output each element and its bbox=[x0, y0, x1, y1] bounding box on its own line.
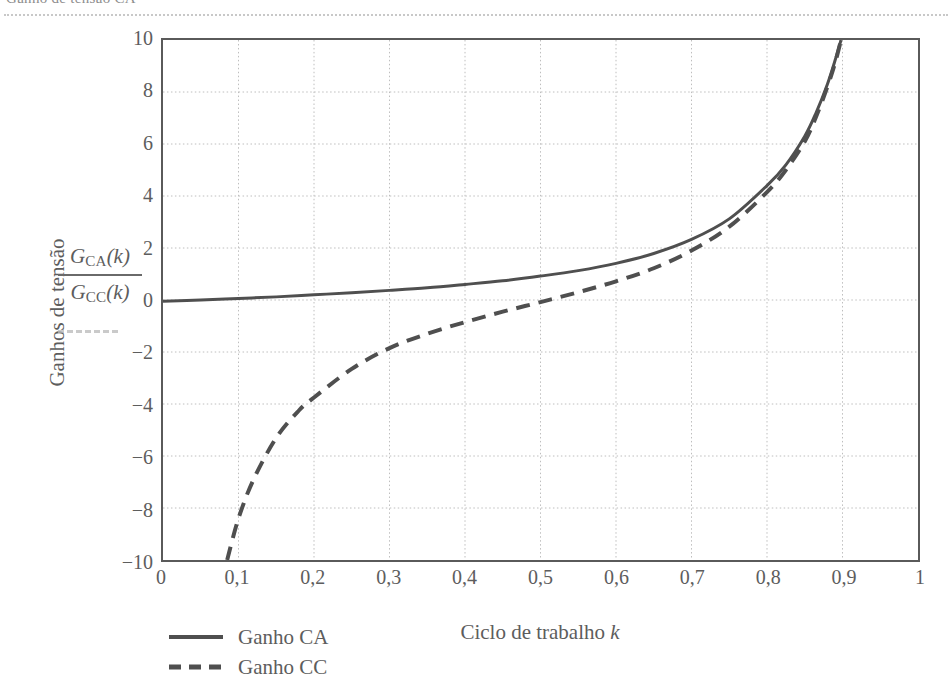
legend-label: Ganho CA bbox=[238, 625, 328, 650]
x-tick-label: 1 bbox=[915, 566, 925, 589]
dashed-line-icon bbox=[168, 660, 224, 674]
legend-item[interactable]: Ganho CA bbox=[168, 622, 418, 652]
y-axis-title: Ganhos de tensão bbox=[45, 198, 70, 428]
x-axis-variable: k bbox=[610, 620, 619, 644]
y-tick-label: −6 bbox=[95, 446, 153, 469]
y-tick-label: −8 bbox=[95, 498, 153, 521]
chart-figure: Ganhos de tensão GCA(k) GCC(k) 1086420−2… bbox=[0, 0, 951, 688]
y-tick-label: −2 bbox=[95, 341, 153, 364]
y-axis-tick-labels: 1086420−2−4−6−8−10 bbox=[87, 38, 153, 562]
solid-line-icon bbox=[168, 630, 224, 644]
y-tick-label: −4 bbox=[95, 393, 153, 416]
legend-label: Ganho CC bbox=[238, 655, 327, 680]
series-line-ganho-ca bbox=[163, 40, 841, 301]
y-tick-label: 2 bbox=[95, 236, 153, 259]
x-tick-label: 0,5 bbox=[528, 566, 553, 589]
y-tick-label: 10 bbox=[95, 27, 153, 50]
data-curves bbox=[163, 40, 918, 560]
y-tick-label: 8 bbox=[95, 79, 153, 102]
x-axis-title-text: Ciclo de trabalho bbox=[460, 620, 610, 644]
chart-legend: Ganho CAGanho CC bbox=[168, 622, 418, 682]
numerator-symbol: G bbox=[70, 244, 85, 268]
x-tick-label: 0,8 bbox=[756, 566, 781, 589]
y-tick-label: −10 bbox=[95, 551, 153, 574]
denominator-symbol: G bbox=[70, 280, 85, 304]
x-tick-label: 0,1 bbox=[224, 566, 249, 589]
series-line-ganho-cc bbox=[227, 40, 841, 560]
x-tick-label: 0,6 bbox=[604, 566, 629, 589]
y-tick-label: 0 bbox=[95, 289, 153, 312]
legend-item[interactable]: Ganho CC bbox=[168, 652, 418, 682]
x-tick-label: 0,9 bbox=[832, 566, 857, 589]
x-tick-label: 0,2 bbox=[300, 566, 325, 589]
x-axis-tick-labels: 00,10,20,30,40,50,60,70,80,91 bbox=[161, 566, 920, 598]
plot-area bbox=[161, 38, 920, 562]
x-tick-label: 0 bbox=[156, 566, 166, 589]
x-tick-label: 0,7 bbox=[680, 566, 705, 589]
y-tick-label: 6 bbox=[95, 131, 153, 154]
x-tick-label: 0,3 bbox=[376, 566, 401, 589]
y-tick-label: 4 bbox=[95, 184, 153, 207]
x-tick-label: 0,4 bbox=[452, 566, 477, 589]
